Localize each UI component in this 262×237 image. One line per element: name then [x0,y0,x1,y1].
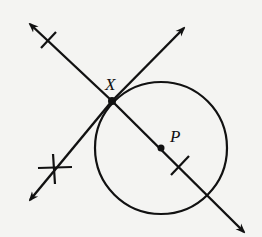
label-P: P [169,127,180,146]
diagram-svg: X P [0,0,262,237]
line-XP [30,24,112,101]
tangent-line-down [30,101,112,200]
cross-mark-v [53,154,55,184]
point-X [108,97,116,105]
label-X: X [104,75,116,94]
geometry-diagram: X P [0,0,262,237]
tick-mark-lower [171,156,189,175]
point-P [158,145,165,152]
tangent-line-up [112,28,184,101]
